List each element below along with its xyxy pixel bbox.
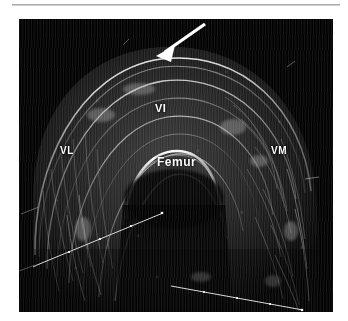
annotation-vastus-intermedius: VI [155, 102, 166, 114]
figure-page: VI VL VM Femur [0, 0, 348, 321]
annotation-femur: Femur [157, 155, 196, 169]
annotation-vastus-medialis: VM [271, 145, 287, 156]
annotation-vastus-lateralis: VL [60, 145, 74, 156]
top-divider-rule [12, 4, 340, 6]
ultrasound-scan-image: VI VL VM Femur [19, 19, 333, 312]
